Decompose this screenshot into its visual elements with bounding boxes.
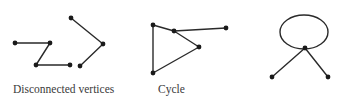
label-cycle: Cycle <box>158 83 185 95</box>
loop-graph <box>270 15 331 79</box>
edge <box>153 47 199 73</box>
edge <box>71 18 103 44</box>
vertex <box>34 63 39 68</box>
vertex <box>69 16 74 21</box>
vertex <box>326 75 331 80</box>
vertex <box>270 75 275 80</box>
disconnected-graph <box>13 16 106 69</box>
edge <box>272 48 305 77</box>
vertex <box>68 63 73 68</box>
vertex <box>13 41 18 46</box>
cycle-graph <box>151 23 229 76</box>
edge <box>174 31 199 47</box>
vertex <box>197 45 202 50</box>
vertex <box>151 71 156 76</box>
loop-edge <box>280 15 328 49</box>
vertex <box>78 64 83 69</box>
edge <box>305 48 328 77</box>
edge <box>80 44 103 66</box>
vertex <box>48 41 53 46</box>
vertex <box>224 26 229 31</box>
edge <box>174 28 226 31</box>
vertex <box>151 23 156 28</box>
edge <box>36 43 50 65</box>
label-disconnected-vertices: Disconnected vertices <box>13 83 114 95</box>
vertex <box>172 29 177 34</box>
edge <box>153 25 174 31</box>
vertex <box>303 46 308 51</box>
vertex <box>101 42 106 47</box>
